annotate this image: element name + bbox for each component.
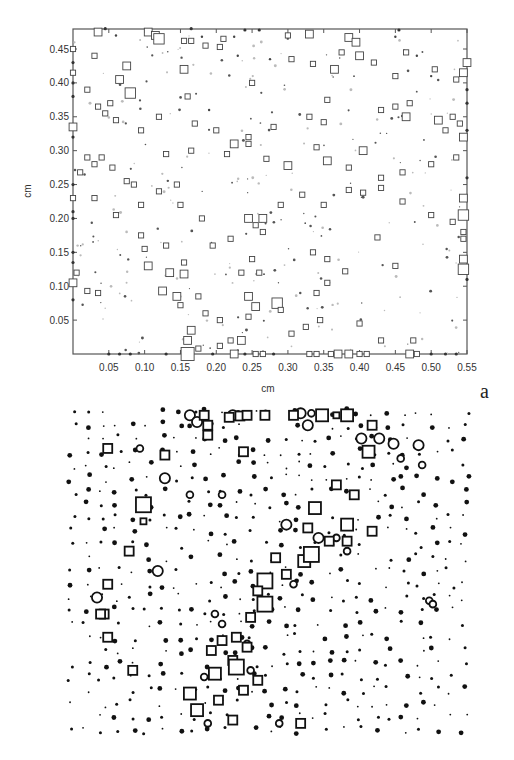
data-dot [146, 257, 147, 258]
data-dot [112, 490, 117, 495]
data-square [454, 155, 459, 160]
data-dot [132, 607, 135, 610]
data-square [103, 111, 108, 116]
data-dot [430, 75, 432, 77]
data-square [217, 44, 222, 49]
data-dot [387, 452, 390, 455]
data-dot [249, 78, 251, 80]
data-dot [71, 95, 74, 98]
data-dot [167, 51, 169, 53]
data-dot [330, 650, 335, 655]
data-dot [173, 437, 175, 439]
data-dot [113, 639, 118, 644]
data-dot [452, 606, 454, 608]
data-dot [139, 99, 141, 101]
data-dot [203, 345, 204, 346]
data-dot [221, 411, 223, 413]
data-dot [346, 579, 349, 582]
data-dot [180, 547, 183, 550]
data-dot [266, 175, 267, 176]
data-dot [296, 505, 301, 510]
data-dot [296, 607, 301, 612]
data-dot [451, 159, 453, 161]
data-dot [272, 352, 275, 355]
data-dot [466, 714, 468, 716]
data-square [318, 318, 323, 323]
data-dot [112, 208, 115, 211]
data-square [187, 326, 195, 334]
data-square [113, 212, 118, 217]
data-dot [377, 500, 379, 502]
data-dot [76, 244, 78, 246]
data-dot [132, 662, 134, 664]
data-dot [190, 27, 193, 30]
y-tick-label: 0.25 [50, 179, 70, 190]
data-dot [417, 500, 420, 503]
data-dot [223, 438, 228, 443]
data-dot [465, 102, 468, 105]
data-dot [353, 75, 355, 77]
data-square [309, 502, 321, 514]
data-dot [449, 638, 451, 640]
data-dot [160, 716, 163, 719]
data-dot [415, 584, 418, 587]
data-dot [430, 677, 433, 680]
data-square [245, 292, 253, 300]
data-dot [299, 650, 302, 653]
data-dot [437, 79, 440, 82]
data-dot [223, 594, 228, 599]
x-tick-label: 0.35 [314, 362, 334, 373]
data-square [257, 270, 262, 275]
y-tick-label: 0.30 [50, 145, 70, 156]
data-square [345, 350, 353, 358]
data-dot [253, 280, 255, 282]
data-dot [144, 542, 149, 547]
data-dot [210, 453, 212, 455]
data-dot [265, 541, 268, 544]
data-dot [102, 318, 104, 320]
data-dot [254, 725, 259, 730]
data-dot [267, 337, 269, 339]
data-dot [293, 259, 296, 262]
data-dot [116, 730, 119, 733]
data-dot [113, 527, 115, 529]
data-dot [192, 462, 197, 467]
data-dot [377, 716, 380, 719]
data-dot [167, 180, 169, 182]
data-dot [455, 326, 458, 329]
data-square [334, 350, 342, 358]
data-dot [281, 492, 286, 497]
data-square [400, 170, 405, 175]
data-dot [298, 461, 300, 463]
data-dot [229, 267, 231, 269]
data-square [352, 38, 360, 46]
data-dot [421, 338, 423, 340]
data-dot [329, 609, 332, 612]
data-dot [256, 665, 259, 668]
data-dot [327, 531, 330, 534]
data-dot [247, 192, 248, 193]
data-dot [300, 672, 305, 677]
data-dot [445, 558, 447, 560]
data-dot [423, 637, 425, 639]
data-dot [260, 122, 262, 124]
data-dot [243, 28, 246, 31]
data-circle [201, 674, 208, 681]
data-dot [447, 112, 448, 113]
data-dot [166, 527, 168, 529]
data-dot [402, 423, 405, 426]
data-dot [314, 440, 317, 443]
x-tick-label: 0.55 [457, 362, 477, 373]
data-dot [451, 449, 454, 452]
data-circle [313, 533, 323, 543]
data-dot [446, 256, 449, 259]
data-dot [293, 632, 296, 635]
data-square [253, 586, 262, 595]
data-dot [273, 269, 276, 272]
data-dot [74, 169, 77, 172]
data-dot [309, 225, 312, 228]
data-dot [97, 678, 100, 681]
data-square [230, 140, 238, 148]
data-dot [467, 412, 470, 415]
data-dot [71, 217, 74, 220]
